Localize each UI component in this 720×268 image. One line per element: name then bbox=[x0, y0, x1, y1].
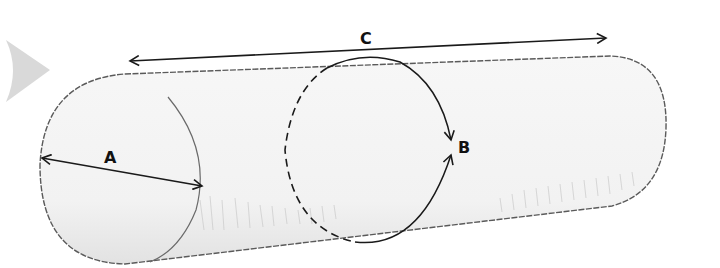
diagram-canvas: A B C bbox=[0, 0, 720, 268]
label-a: A bbox=[104, 150, 116, 166]
label-c: C bbox=[360, 31, 372, 47]
cylinder-body bbox=[40, 56, 666, 264]
label-b: B bbox=[458, 140, 470, 156]
play-triangle-icon[interactable] bbox=[6, 40, 50, 102]
